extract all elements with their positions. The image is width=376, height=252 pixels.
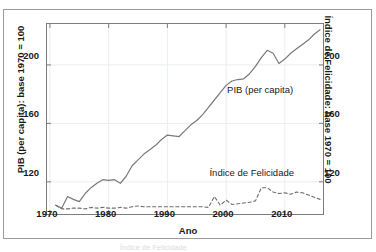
x-tick-label-2000: 2000 xyxy=(203,208,243,219)
gridlines xyxy=(47,24,323,214)
caption-top-sliver xyxy=(6,0,206,7)
series-line-happiness xyxy=(56,188,320,209)
series-annotation-happiness: Índice de Felicidade xyxy=(209,167,294,178)
y-tick-label-left-200: 200 xyxy=(9,50,39,61)
x-axis-title: Ano xyxy=(0,225,376,236)
y-tick-label-right-120: 120 xyxy=(324,167,354,178)
caption-bottom-sliver: Índice de Felicidade xyxy=(120,243,376,252)
chart-screenshot: PIB (per capita)Índice de Felicidade PIB… xyxy=(0,0,376,252)
x-tick-label-1970: 1970 xyxy=(27,208,67,219)
plot-svg xyxy=(47,24,323,214)
x-tick-label-2010: 2010 xyxy=(262,208,302,219)
series-annotation-gdp: PIB (per capita) xyxy=(227,84,293,95)
plot-area: PIB (per capita)Índice de Felicidade xyxy=(46,23,324,215)
y-tick-label-right-200: 200 xyxy=(324,50,354,61)
tick-marks xyxy=(47,24,323,214)
y-tick-label-left-160: 160 xyxy=(9,108,39,119)
x-tick-label-1990: 1990 xyxy=(144,208,184,219)
figure-frame: PIB (per capita)Índice de Felicidade PIB… xyxy=(3,9,372,239)
y-tick-label-left-120: 120 xyxy=(9,167,39,178)
x-tick-label-1980: 1980 xyxy=(86,208,126,219)
y-tick-label-right-160: 160 xyxy=(324,108,354,119)
